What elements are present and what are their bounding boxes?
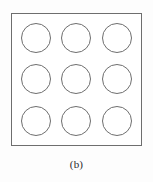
circle-icon-r1c2: [61, 23, 91, 53]
circle-icon-r1c1: [21, 23, 51, 53]
grid-cell-r2c1: [16, 59, 56, 101]
circle-icon-r3c2: [61, 106, 91, 136]
circle-icon-r1c3: [102, 23, 132, 53]
grid-cell-r1c2: [56, 17, 96, 59]
grid-cell-r2c2: [56, 59, 96, 101]
figure-panel: (b): [0, 0, 153, 182]
grid-cell-r1c3: [97, 17, 137, 59]
figure-caption: (b): [0, 157, 153, 171]
circle-icon-r3c1: [21, 106, 51, 136]
grid-cell-r1c1: [16, 17, 56, 59]
circle-icon-r2c3: [102, 64, 132, 94]
grid-cell-r2c3: [97, 59, 137, 101]
circle-grid: [12, 14, 141, 145]
grid-cell-r3c1: [16, 100, 56, 142]
circle-icon-r3c3: [102, 106, 132, 136]
circle-icon-r2c2: [61, 64, 91, 94]
grid-cell-r3c3: [97, 100, 137, 142]
grid-cell-r3c2: [56, 100, 96, 142]
diagram-frame-border: [11, 13, 142, 146]
circle-icon-r2c1: [21, 64, 51, 94]
